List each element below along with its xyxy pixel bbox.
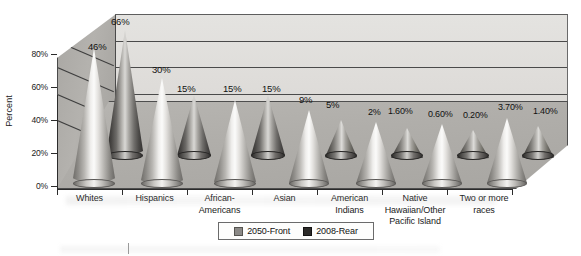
y-axis-line: [57, 95, 58, 189]
cone-rear-asian: [325, 120, 357, 160]
y-tick-mark: [51, 153, 57, 154]
cone-base-ellipse: [73, 179, 115, 188]
cone-base-ellipse: [325, 151, 357, 160]
cone-front-american-indians: [356, 122, 396, 188]
data-label-rear-hispanics: 15%: [177, 83, 195, 94]
data-label-front-asian: 9%: [299, 94, 312, 105]
x-axis-line: [57, 189, 512, 190]
data-label-rear-whites: 66%: [111, 16, 129, 27]
cone-base-ellipse: [487, 179, 527, 188]
y-axis-title: Percent: [4, 83, 14, 139]
scan-artifact-mark: [128, 243, 129, 254]
data-label-rear-native-hawaiian: 0.20%: [463, 110, 488, 120]
legend-swatch-icon-2050-front: [234, 227, 243, 236]
cone-chart: 46% 66% 30% 15% 15% 15% 9% 5% 2% 1.60% 0…: [0, 0, 581, 256]
y-tick-label-80: 80%: [31, 49, 48, 59]
data-label-rear-asian: 5%: [326, 99, 339, 110]
cone-base-ellipse: [251, 151, 285, 160]
scan-artifact: [66, 196, 496, 205]
cone-body: [73, 48, 115, 188]
cone-body: [141, 78, 183, 188]
cone-body: [214, 100, 256, 188]
cone-base-ellipse: [214, 179, 256, 188]
data-label-rear-american-indians: 1.60%: [388, 106, 413, 116]
legend-label-2008-rear: 2008-Rear: [316, 226, 358, 236]
cone-front-whites: [73, 48, 115, 188]
chart-legend: 2050-Front 2008-Rear: [218, 222, 374, 240]
cone-base-ellipse: [141, 179, 183, 188]
cone-base-ellipse: [422, 179, 462, 188]
y-tick-label-0: 0%: [36, 181, 48, 191]
y-tick-mark: [51, 186, 57, 187]
cone-body: [487, 118, 527, 188]
legend-item-2050-front[interactable]: 2050-Front: [234, 226, 290, 236]
legend-item-2008-rear[interactable]: 2008-Rear: [303, 226, 358, 236]
y-tick-mark: [51, 120, 57, 121]
y-tick-mark: [51, 87, 57, 88]
data-label-front-african-americans: 15%: [223, 83, 241, 94]
y-tick-80: 80%: [0, 54, 57, 55]
y-tick-label-40: 40%: [31, 115, 48, 125]
gridline-60: [116, 67, 567, 68]
cone-base-ellipse: [356, 179, 396, 188]
data-label-front-hispanics: 30%: [152, 64, 170, 75]
scan-artifact: [60, 246, 440, 253]
y-tick-label-20: 20%: [31, 148, 48, 158]
cone-rear-african-americans: [251, 95, 285, 160]
y-tick-20: 20%: [0, 153, 57, 154]
legend-label-2050-front: 2050-Front: [247, 226, 290, 236]
gridline-80: [116, 41, 567, 42]
y-tick-0: 0%: [0, 186, 57, 187]
data-label-front-native-hawaiian: 0.60%: [428, 109, 453, 119]
cone-body: [289, 110, 329, 188]
cone-front-african-americans: [214, 100, 256, 188]
cone-front-hispanics: [141, 78, 183, 188]
data-label-front-american-indians: 2%: [368, 107, 381, 117]
data-label-front-whites: 46%: [88, 41, 106, 52]
data-label-rear-two-or-more-races: 1.40%: [533, 106, 558, 116]
cone-front-two-or-more-races: [487, 118, 527, 188]
cone-front-asian: [289, 110, 329, 188]
y-tick-mark: [51, 54, 57, 55]
legend-swatch-icon-2008-rear: [303, 227, 312, 236]
y-tick-label-60: 60%: [31, 82, 48, 92]
data-label-rear-african-americans: 15%: [262, 83, 280, 94]
cone-front-native-hawaiian: [422, 124, 462, 188]
data-label-front-two-or-more-races: 3.70%: [498, 102, 523, 112]
cone-base-ellipse: [289, 179, 329, 188]
